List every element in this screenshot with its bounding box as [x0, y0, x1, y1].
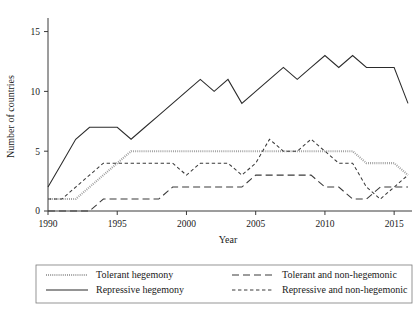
x-tick-label: 2010 [315, 219, 334, 229]
chart-figure: 051015 Number of countries 1990199520002… [0, 0, 420, 311]
x-axis-group: 199019952000200520102015 Year [39, 211, 413, 245]
x-tick-label: 1990 [39, 219, 58, 229]
data-series-group [48, 55, 408, 211]
y-axis-title: Number of countries [5, 75, 16, 158]
x-tick-label: 2000 [177, 219, 196, 229]
series-line-repressive-hegemony [48, 55, 408, 187]
y-axis-group: 051015 Number of countries [5, 18, 48, 216]
y-tick-label: 0 [35, 206, 40, 216]
legend-label: Tolerant and non-hegemonic [282, 269, 397, 280]
legend-label: Repressive and non-hegemonic [282, 284, 408, 295]
series-line-tolerant-hegemony [48, 151, 408, 199]
x-tick-label: 1995 [108, 219, 127, 229]
x-tick-label: 2015 [385, 219, 404, 229]
x-axis-title: Year [219, 234, 238, 245]
legend: Tolerant hegemonyTolerant and non-hegemo… [36, 265, 412, 303]
y-tick-label: 10 [31, 87, 41, 97]
y-tick-label: 15 [31, 27, 41, 37]
x-tick-group: 199019952000200520102015 [39, 211, 404, 229]
legend-label: Repressive hegemony [96, 284, 184, 295]
legend-label: Tolerant hegemony [96, 269, 173, 280]
series-line-repressive-and-non-hegemonic [48, 139, 408, 199]
line-chart: 051015 Number of countries 1990199520002… [0, 0, 420, 311]
x-tick-label: 2005 [246, 219, 265, 229]
series-line-tolerant-and-non-hegemonic [48, 175, 408, 211]
y-tick-label: 5 [35, 147, 40, 157]
legend-items: Tolerant hegemonyTolerant and non-hegemo… [46, 269, 408, 295]
y-tick-group: 051015 [31, 27, 49, 216]
